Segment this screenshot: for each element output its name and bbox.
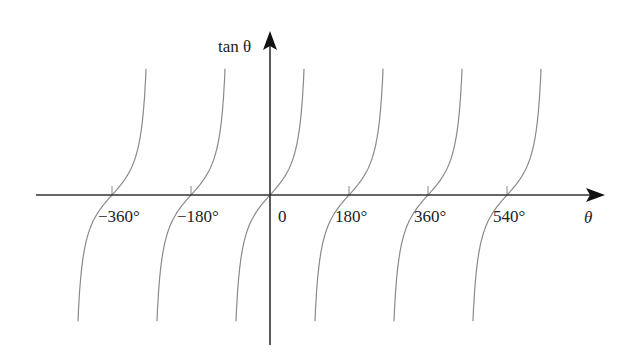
x-tick-label: 360° (414, 207, 446, 226)
tan-graph: tan θ θ −360°−180°0180°360°540° (0, 0, 639, 360)
x-tick-label: 540° (493, 207, 525, 226)
x-tick-label: −360° (98, 207, 140, 226)
x-tick-label: −180° (177, 207, 219, 226)
x-tick-label: 0 (278, 207, 287, 226)
x-axis-ticks (112, 186, 507, 195)
y-axis-label: tan θ (218, 37, 251, 56)
x-tick-labels: −360°−180°0180°360°540° (98, 207, 525, 226)
x-tick-label: 180° (335, 207, 367, 226)
x-axis-label: θ (584, 208, 592, 227)
